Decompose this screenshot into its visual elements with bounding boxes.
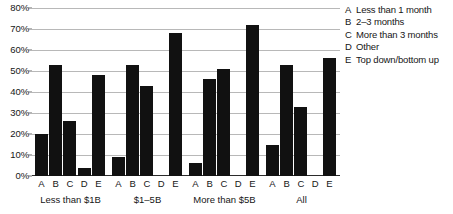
gridline	[32, 29, 340, 30]
group-label: More than $5B	[189, 194, 260, 205]
bar	[126, 65, 139, 176]
bar	[140, 86, 153, 176]
y-axis: 0%10%20%30%40%50%60%70%80%	[0, 0, 32, 214]
gridline	[32, 50, 340, 51]
gridline	[32, 71, 340, 72]
y-axis-tick-label: 60%	[10, 45, 29, 55]
legend: ALess than 1 monthB2–3 monthsCMore than …	[345, 4, 453, 66]
bar	[49, 65, 62, 176]
bar	[203, 79, 216, 176]
series-letter-c: C	[217, 178, 230, 189]
series-letter-d: D	[78, 178, 91, 189]
bar	[112, 157, 125, 176]
bar	[92, 75, 105, 176]
y-axis-tick-label: 10%	[10, 150, 29, 160]
legend-item: ETop down/bottom up	[345, 54, 453, 66]
bar	[189, 163, 202, 176]
y-axis-tick-label: 40%	[10, 87, 29, 97]
legend-item: B2–3 months	[345, 16, 453, 28]
series-letter-e: E	[169, 178, 182, 189]
bar	[78, 168, 91, 176]
y-axis-tick-label: 20%	[10, 129, 29, 139]
group-label: $1–5B	[112, 194, 183, 205]
bar	[294, 107, 307, 176]
plot-area	[32, 8, 340, 176]
bar	[169, 33, 182, 176]
legend-key: C	[345, 29, 356, 41]
y-axis-tick-label: 80%	[10, 3, 29, 13]
bar	[63, 121, 76, 176]
series-letter-d: D	[309, 178, 322, 189]
series-letter-d: D	[155, 178, 168, 189]
series-letter-a: A	[112, 178, 125, 189]
bar	[323, 58, 336, 176]
legend-item: CMore than 3 months	[345, 29, 453, 41]
series-letter-d: D	[232, 178, 245, 189]
y-axis-tick-label: 50%	[10, 66, 29, 76]
series-letter-a: A	[266, 178, 279, 189]
legend-label: 2–3 months	[356, 16, 404, 28]
y-axis-tick-label: 70%	[10, 24, 29, 34]
series-letter-b: B	[203, 178, 216, 189]
bar	[217, 69, 230, 176]
y-axis-tick-label: 0%	[15, 171, 29, 181]
series-letter-b: B	[126, 178, 139, 189]
bar-chart: 0%10%20%30%40%50%60%70%80% ABCDELess tha…	[0, 0, 453, 214]
legend-key: D	[345, 41, 356, 53]
series-letter-a: A	[189, 178, 202, 189]
category-axis: ABCDELess than $1BABCDE$1–5BABCDEMore th…	[32, 176, 340, 214]
series-letter-a: A	[35, 178, 48, 189]
bar	[246, 25, 259, 176]
series-letter-e: E	[323, 178, 336, 189]
legend-label: Top down/bottom up	[356, 54, 439, 66]
group-label: All	[266, 194, 337, 205]
legend-key: E	[345, 54, 356, 66]
series-letter-b: B	[49, 178, 62, 189]
legend-key: B	[345, 16, 356, 28]
series-letter-c: C	[140, 178, 153, 189]
legend-label: Less than 1 month	[356, 4, 432, 16]
series-letter-b: B	[280, 178, 293, 189]
series-letter-c: C	[294, 178, 307, 189]
series-letter-e: E	[246, 178, 259, 189]
bar	[280, 65, 293, 176]
gridline	[32, 8, 340, 9]
y-axis-tick-label: 30%	[10, 108, 29, 118]
group-label: Less than $1B	[35, 194, 106, 205]
legend-label: More than 3 months	[356, 29, 438, 41]
series-letter-e: E	[92, 178, 105, 189]
gridline	[32, 92, 340, 93]
series-letter-c: C	[63, 178, 76, 189]
legend-label: Other	[356, 41, 379, 53]
legend-item: DOther	[345, 41, 453, 53]
legend-item: ALess than 1 month	[345, 4, 453, 16]
bar	[266, 145, 279, 177]
bar	[35, 134, 48, 176]
legend-key: A	[345, 4, 356, 16]
